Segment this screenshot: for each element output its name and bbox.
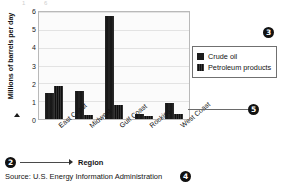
bar-east-coast-crude-oil	[45, 93, 54, 119]
y-tick-2: 2	[22, 80, 36, 87]
bar-west-coast-petroleum-products	[174, 114, 183, 119]
bar-group-gulf-coast	[105, 12, 123, 119]
x-axis-leader-line	[20, 162, 70, 163]
bar-gulf-coast-crude-oil	[105, 16, 114, 119]
x-tick-rockies: Rockies	[148, 123, 149, 124]
legend: Crude oil Petroleum products	[192, 46, 277, 78]
legend-swatch-crude-oil	[197, 53, 204, 60]
y-tick-5: 5	[22, 26, 36, 33]
legend-item-petroleum-products: Petroleum products	[197, 62, 271, 73]
callout-marker-5: 5	[248, 104, 259, 115]
y-tick-3: 3	[22, 62, 36, 69]
bar-midwest-petroleum-products	[84, 115, 93, 119]
y-axis-title: Millions of barrels per day	[7, 8, 15, 104]
y-tick-4: 4	[22, 44, 36, 51]
callout-marker-3: 3	[263, 27, 274, 38]
x-axis-tick-labels: East CoastMidwestGulf CoastRockiesWest C…	[38, 121, 190, 159]
legend-label-crude-oil: Crude oil	[208, 53, 237, 61]
bar-rockies-petroleum-products	[144, 116, 153, 119]
x-tick-label: Midwest	[88, 123, 94, 130]
legend-swatch-petroleum-products	[197, 64, 204, 71]
bar-group-east-coast	[45, 12, 63, 119]
x-tick-west-coast: West Coast	[179, 123, 180, 124]
callout-marker-4: 4	[180, 171, 191, 182]
callout-marker-2: 2	[5, 157, 16, 168]
bar-gulf-coast-petroleum-products	[114, 105, 123, 119]
legend-label-petroleum-products: Petroleum products	[208, 64, 271, 72]
bar-groups	[39, 12, 189, 119]
cropped-mark-a: 1	[22, 0, 25, 6]
x-tick-label: West Coast	[179, 123, 185, 130]
x-tick-midwest: Midwest	[88, 123, 89, 124]
x-tick-east-coast: East Coast	[57, 123, 58, 124]
y-tick-6: 6	[22, 8, 36, 15]
cropped-mark-b: 6	[44, 0, 47, 6]
x-axis-arrow-icon	[69, 159, 73, 165]
x-tick-gulf-coast: Gulf Coast	[118, 123, 119, 124]
plot-area	[38, 11, 190, 120]
y-tick-0: 0	[22, 117, 36, 124]
y-axis-tick-labels: 6 5 4 3 2 1 0	[22, 11, 36, 120]
y-axis-arrow-icon	[14, 113, 20, 117]
x-tick-label: Gulf Coast	[118, 123, 124, 130]
bar-chart-figure: 1 6 Millions of barrels per day 6 5 4 3 …	[0, 0, 287, 186]
y-tick-1: 1	[22, 98, 36, 105]
x-tick-label: Rockies	[149, 123, 155, 130]
source-note: Source: U.S. Energy Information Administ…	[5, 172, 162, 181]
bar-east-coast-petroleum-products	[54, 86, 63, 119]
bar-group-west-coast	[165, 12, 183, 119]
legend-item-crude-oil: Crude oil	[197, 51, 271, 62]
callout-5-leader-line	[188, 109, 248, 110]
x-axis-title: Region	[78, 158, 103, 167]
x-tick-label: East Coast	[57, 123, 63, 130]
